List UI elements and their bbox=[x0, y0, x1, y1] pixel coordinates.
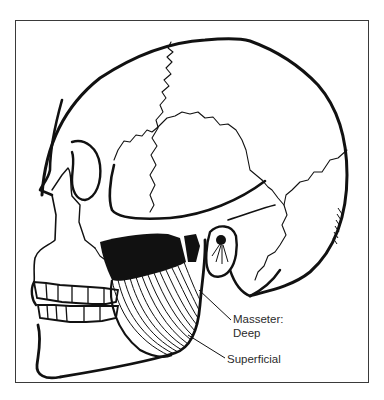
mastoid-process bbox=[230, 270, 280, 296]
zygomatic-arch bbox=[110, 165, 265, 219]
arch-lower bbox=[228, 205, 275, 220]
label-deep: Deep bbox=[233, 327, 261, 340]
lower-teeth bbox=[38, 305, 118, 322]
squamous-suture bbox=[158, 112, 262, 180]
leader-line-superficial bbox=[188, 335, 225, 358]
leader-line-deep bbox=[199, 290, 231, 320]
occipital-suture bbox=[262, 180, 284, 205]
lambdoid-suture bbox=[255, 150, 347, 280]
masseter-deep-upper bbox=[184, 234, 200, 262]
masseter-deep bbox=[100, 233, 186, 280]
ear-canal-hole bbox=[216, 235, 226, 245]
label-masseter: Masseter: bbox=[233, 313, 284, 326]
coronal-suture bbox=[156, 42, 173, 127]
skull-illustration bbox=[0, 0, 384, 400]
orbit-outline bbox=[72, 141, 100, 200]
ear-rays bbox=[212, 244, 228, 264]
nose-outline bbox=[34, 195, 56, 282]
nasal-bone bbox=[52, 168, 95, 248]
temporal-suture bbox=[150, 128, 158, 212]
label-superficial: Superficial bbox=[227, 353, 281, 366]
